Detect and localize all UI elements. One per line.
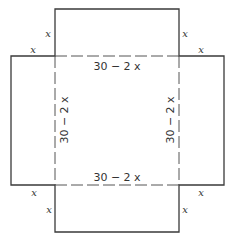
net-outline [11, 9, 224, 232]
side-label-top: 30 − 2 x [93, 60, 141, 73]
corner-label-bottom-left-vertical: x [46, 204, 52, 215]
corner-label-top-left-vertical: x [45, 28, 51, 39]
box-net-diagram: 30 − 2 x 30 − 2 x 30 − 2 x 30 − 2 x x x … [0, 0, 232, 241]
corner-label-bottom-right-vertical: x [182, 204, 188, 215]
corner-label-bottom-left-horizontal: x [31, 187, 37, 198]
corner-label-top-right-horizontal: x [198, 44, 204, 55]
side-label-bottom: 30 − 2 x [93, 171, 141, 184]
corner-label-bottom-right-horizontal: x [198, 187, 204, 198]
side-label-right: 30 − 2 x [164, 96, 177, 144]
side-label-left: 30 − 2 x [58, 96, 71, 144]
corner-label-top-right-vertical: x [182, 28, 188, 39]
corner-label-top-left-horizontal: x [30, 44, 36, 55]
